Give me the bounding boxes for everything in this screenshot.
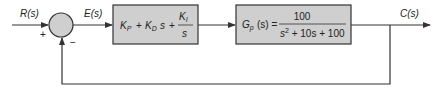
svg-text:(s) =: (s) = [257, 19, 277, 30]
input-label: R(s) [20, 8, 39, 19]
block-diagram: R(s) + − E(s) KP + KD s + KI s Gp (s) = … [0, 0, 438, 91]
svg-text:100: 100 [294, 11, 311, 22]
svg-text:+: + [169, 20, 175, 31]
minus-sign: − [70, 37, 76, 48]
plus-sign: + [40, 29, 46, 40]
svg-text:s: s [160, 20, 165, 31]
summing-junction [49, 13, 73, 37]
svg-text:+: + [136, 20, 142, 31]
svg-text:s: s [182, 28, 187, 39]
output-label: C(s) [400, 8, 419, 19]
svg-text:s2 + 10s + 100: s2 + 10s + 100 [280, 27, 345, 39]
error-label: E(s) [84, 8, 102, 19]
